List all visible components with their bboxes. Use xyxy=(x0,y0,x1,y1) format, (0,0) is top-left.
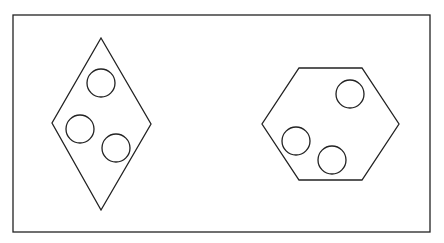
diamond-circle-2 xyxy=(66,115,94,143)
diamond-circle-3 xyxy=(102,134,130,162)
hexagon-outline xyxy=(262,68,399,180)
diamond-shape-group xyxy=(52,38,151,210)
hexagon-circle-2 xyxy=(282,127,310,155)
hexagon-circle-1 xyxy=(336,80,364,108)
diamond-circle-1 xyxy=(87,69,115,97)
diagram-frame xyxy=(13,15,430,232)
diagram-canvas xyxy=(0,0,444,243)
diagram-svg xyxy=(0,0,444,243)
hexagon-shape-group xyxy=(262,68,399,180)
hexagon-circle-3 xyxy=(318,146,346,174)
